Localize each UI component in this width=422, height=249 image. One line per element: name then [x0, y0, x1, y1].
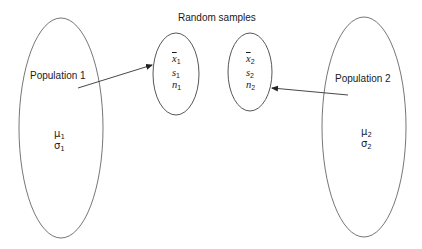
diagram-canvas	[0, 0, 422, 249]
sample-1-mean: x1	[172, 54, 181, 65]
arrow-population-2-to-sample-2	[272, 88, 348, 95]
population-1-ellipse	[19, 18, 103, 238]
sample-2-size: n2	[246, 80, 255, 91]
sample-1-size: n1	[172, 80, 181, 91]
population-1-sd: σ1	[54, 141, 65, 153]
sample-1-sd: s1	[172, 68, 180, 79]
population-1-label: Population 1	[30, 71, 86, 81]
population-2-label: Population 2	[335, 74, 391, 84]
arrow-population-1-to-sample-1	[78, 65, 152, 88]
sample-2-sd: s2	[246, 68, 254, 79]
sample-2-mean: x2	[246, 54, 255, 65]
population-2-sd: σ2	[361, 139, 372, 151]
diagram-title: Random samples	[178, 13, 256, 23]
